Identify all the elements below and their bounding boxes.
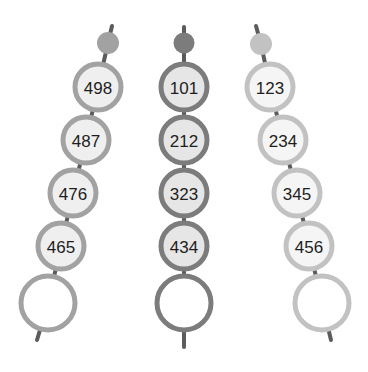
chain-left-cap-bead <box>97 32 119 54</box>
bead: 234 <box>260 117 306 163</box>
chain-left: 498 487 476 465 <box>21 26 121 340</box>
bead-label: 345 <box>283 185 311 204</box>
bead: 101 <box>161 64 207 110</box>
chain-middle-cap-bead <box>174 33 195 54</box>
bead-label: 434 <box>170 238 198 257</box>
bead-label: 323 <box>170 185 198 204</box>
bead-label: 498 <box>84 79 112 98</box>
bead: 487 <box>63 117 109 163</box>
bead: 456 <box>286 223 332 269</box>
bead: 476 <box>50 170 96 216</box>
empty-bead <box>21 276 75 330</box>
bead-label: 234 <box>269 132 297 151</box>
diagram-canvas: 498 487 476 465 101 212 <box>0 0 368 372</box>
bead: 345 <box>274 170 320 216</box>
bead: 498 <box>75 64 121 110</box>
bead-label: 465 <box>47 238 75 257</box>
bead: 212 <box>161 117 207 163</box>
empty-bead <box>295 276 349 330</box>
bead-label: 212 <box>170 132 198 151</box>
bead: 465 <box>38 223 84 269</box>
bead: 323 <box>161 170 207 216</box>
bead: 434 <box>161 223 207 269</box>
bead-label: 101 <box>170 79 198 98</box>
bead: 123 <box>247 64 293 110</box>
empty-bead <box>157 276 211 330</box>
chain-middle: 101 212 323 434 <box>157 27 211 347</box>
bead-label: 456 <box>295 238 323 257</box>
chain-right-cap-bead <box>250 33 272 55</box>
bead-label: 123 <box>256 79 284 98</box>
chain-right: 123 234 345 456 <box>247 26 349 340</box>
bead-chains-diagram: 498 487 476 465 101 212 <box>0 0 368 372</box>
bead-label: 476 <box>59 185 87 204</box>
bead-label: 487 <box>72 132 100 151</box>
